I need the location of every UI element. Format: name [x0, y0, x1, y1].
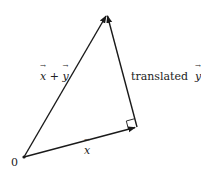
sum-x-symbol: x [40, 70, 46, 83]
diagram-svg [0, 0, 201, 178]
sum-y-symbol: y [62, 70, 68, 83]
sum-vector-label: x + y [40, 70, 69, 83]
plus-sign: + [50, 70, 59, 83]
translated-y-label: translated y [131, 70, 201, 83]
origin-label: 0 [11, 156, 18, 169]
translated-text: translated [131, 70, 188, 83]
vector-diagram: 0 x x + y translated y [0, 0, 201, 178]
vector-x-plus-y-arrow [24, 16, 106, 157]
x-vector-label: x [84, 144, 90, 157]
origin-point [22, 155, 25, 158]
translated-y-symbol: y [195, 70, 201, 83]
vector-x-arrow [24, 128, 135, 158]
x-vec-symbol: x [84, 144, 90, 157]
